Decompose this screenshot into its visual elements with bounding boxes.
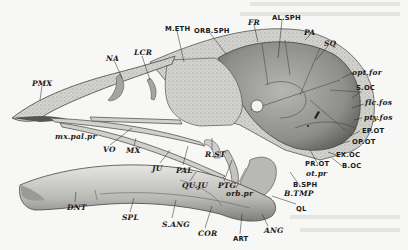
label-maxpalpr: mx.pal.pr <box>55 133 97 141</box>
label-ptyfos: pty.fos <box>364 114 393 122</box>
label-orbpr: orb.pr <box>226 190 253 198</box>
label-opot: OP.OT <box>352 138 376 146</box>
label-mx: MX <box>126 147 141 155</box>
label-dnt: DNT <box>67 204 87 212</box>
label-ang: ANG <box>264 227 284 235</box>
label-orbsph: ORB.SPH <box>194 27 230 35</box>
label-ql: QL <box>296 205 307 213</box>
label-vo: VO <box>103 146 116 154</box>
skull-diagram: PMX NA LCR M.ETH ORB.SPH FR AL.SPH PA SQ… <box>0 0 408 250</box>
label-art: ART <box>233 235 248 243</box>
label-prot: PR.OT <box>305 160 329 168</box>
label-flcfos: flc.fos <box>365 99 392 107</box>
label-spl: SPL <box>122 214 139 222</box>
label-na: NA <box>106 55 119 63</box>
label-meth: M.ETH <box>165 25 190 33</box>
label-lcr: LCR <box>134 49 152 57</box>
label-exoc: EX.OC <box>336 151 360 159</box>
label-fr: FR <box>248 19 260 27</box>
label-soc: S.OC <box>356 84 375 92</box>
skull-illustration <box>0 0 408 250</box>
label-pmx: PMX <box>32 80 52 88</box>
label-otpr: ot.pr <box>306 170 327 178</box>
label-pal: PAL <box>176 167 193 175</box>
lacrimal <box>147 78 156 100</box>
label-alsph: AL.SPH <box>272 14 301 22</box>
label-optfor: opt.for <box>352 69 382 77</box>
label-epot: EP.OT <box>362 127 384 135</box>
label-rst: R.ST <box>205 151 226 159</box>
label-sang: S.ANG <box>162 221 190 229</box>
label-cor: COR <box>198 230 217 238</box>
label-pa: PA <box>304 29 315 37</box>
label-sq: SQ <box>324 40 336 48</box>
label-quju: QU.JU <box>182 182 208 190</box>
label-bsph: B.SPH <box>293 181 317 189</box>
label-boc: B.OC <box>342 162 361 170</box>
label-btmp: B.TMP <box>284 190 313 198</box>
label-ju: JU <box>152 165 163 173</box>
